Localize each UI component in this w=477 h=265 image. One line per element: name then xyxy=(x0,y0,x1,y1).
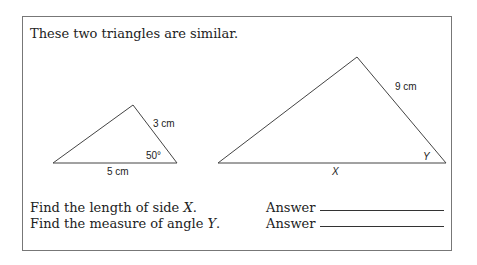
question-1-var: X xyxy=(183,200,192,215)
answer-label-1: Answer xyxy=(266,200,315,215)
large-triangle xyxy=(218,57,446,163)
small-angle-label: 50° xyxy=(146,150,161,161)
question-2-var: Y xyxy=(207,216,216,231)
small-base-label: 5 cm xyxy=(107,166,129,177)
question-2: Find the measure of angle Y. xyxy=(30,216,220,231)
answer-line-1[interactable] xyxy=(320,210,444,211)
small-side-label: 3 cm xyxy=(153,118,175,129)
question-1: Find the length of side X. xyxy=(30,200,197,215)
answer-label-2: Answer xyxy=(266,216,315,231)
large-base-label: X xyxy=(332,166,339,177)
large-side-label: 9 cm xyxy=(395,81,417,92)
question-2-text: Find the measure of angle xyxy=(30,216,207,231)
answer-line-2[interactable] xyxy=(320,226,444,227)
question-1-text: Find the length of side xyxy=(30,200,183,215)
question-2-end: . xyxy=(216,216,220,231)
large-angle-label: Y xyxy=(423,151,430,162)
question-1-end: . xyxy=(193,200,197,215)
